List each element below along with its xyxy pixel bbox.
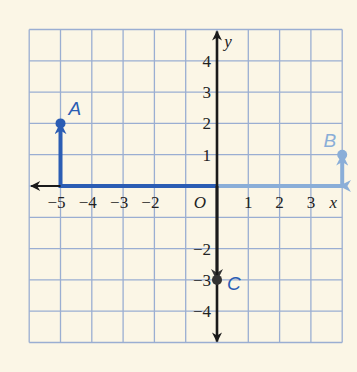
x-tick-label: −4: [79, 193, 98, 212]
y-tick-label: 2: [203, 114, 212, 133]
coordinate-plane-figure: −5−4−3−21234321−2−3−4Oxy ABC: [0, 0, 357, 372]
y-tick-label: 4: [203, 52, 212, 71]
x-axis-label: x: [328, 193, 337, 212]
point-c-label: C: [227, 273, 241, 294]
y-axis-label: y: [222, 32, 232, 51]
point-b-dot: [337, 150, 347, 160]
x-tick-label: −3: [110, 193, 128, 212]
point-b-label: B: [324, 130, 337, 151]
point-a-dot: [56, 118, 66, 128]
x-tick-label: 2: [275, 193, 284, 212]
x-tick-label: 3: [307, 193, 316, 212]
point-c-dot: [212, 275, 222, 285]
coordinate-plane: −5−4−3−21234321−2−3−4Oxy ABC: [0, 0, 357, 372]
y-tick-label: −4: [193, 302, 212, 321]
point-a-label: A: [68, 98, 82, 119]
origin-label: O: [194, 193, 206, 212]
y-tick-label: 1: [203, 146, 212, 165]
y-tick-label: −3: [193, 271, 211, 290]
x-tick-label: 1: [244, 193, 253, 212]
y-tick-label: 3: [203, 83, 212, 102]
x-tick-label: −5: [47, 193, 65, 212]
tick-labels: −5−4−3−21234321−2−3−4Oxy: [47, 32, 337, 322]
y-tick-label: −2: [193, 240, 211, 259]
x-tick-label: −2: [141, 193, 159, 212]
